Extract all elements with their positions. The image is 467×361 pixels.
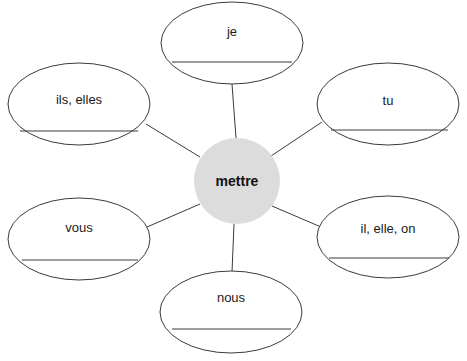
connector-ils-elles bbox=[146, 124, 200, 157]
node-label-vous: vous bbox=[65, 220, 92, 235]
connector-je bbox=[232, 84, 236, 138]
center-verb-label: mettre bbox=[216, 173, 259, 189]
node-ellipse-il-elle-on bbox=[317, 196, 459, 278]
node-label-nous: nous bbox=[217, 290, 245, 305]
node-label-ils-elles: ils, elles bbox=[56, 92, 102, 107]
node-label-il-elle-on: il, elle, on bbox=[361, 221, 416, 236]
node-ellipse-vous bbox=[8, 198, 150, 280]
connector-tu bbox=[271, 122, 322, 156]
node-label-je: je bbox=[227, 24, 237, 39]
connector-vous bbox=[147, 204, 200, 227]
connector-il-elle-on bbox=[272, 206, 321, 227]
node-label-tu: tu bbox=[383, 93, 394, 108]
connector-nous bbox=[232, 224, 234, 272]
node-ellipse-je bbox=[161, 2, 303, 84]
conjugation-diagram: mettre je tu il, elle, on nous vous ils,… bbox=[0, 0, 467, 361]
node-ellipse-nous bbox=[160, 271, 302, 353]
